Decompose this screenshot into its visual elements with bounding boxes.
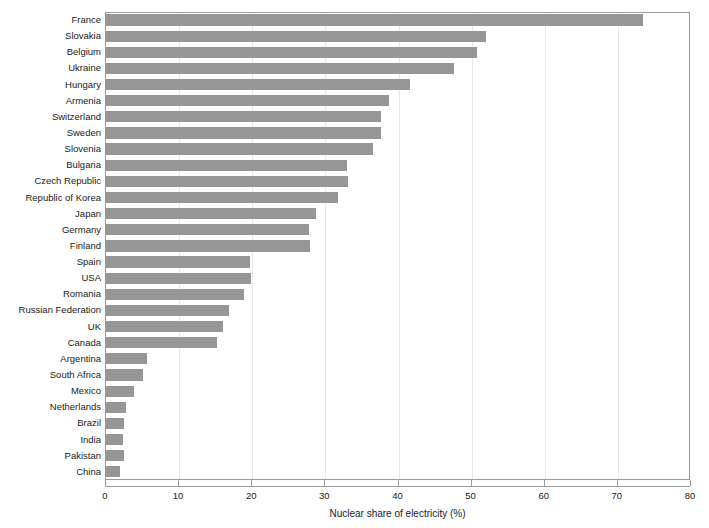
- x-tick: [324, 480, 325, 486]
- bar-row[interactable]: [105, 448, 690, 464]
- category-label: Brazil: [0, 415, 101, 431]
- category-label: Canada: [0, 335, 101, 351]
- bar-row[interactable]: [105, 157, 690, 173]
- category-label: Sweden: [0, 125, 101, 141]
- category-label: Japan: [0, 206, 101, 222]
- bar-row[interactable]: [105, 399, 690, 415]
- category-label: Spain: [0, 254, 101, 270]
- bar[interactable]: [105, 305, 229, 316]
- bar-row[interactable]: [105, 77, 690, 93]
- category-label: USA: [0, 270, 101, 286]
- bar[interactable]: [105, 14, 643, 25]
- bar[interactable]: [105, 31, 486, 42]
- category-label: Netherlands: [0, 399, 101, 415]
- category-axis-labels: FranceSlovakiaBelgiumUkraineHungaryArmen…: [0, 12, 101, 480]
- category-label: Belgium: [0, 44, 101, 60]
- bar-row[interactable]: [105, 432, 690, 448]
- bars-layer: [105, 12, 690, 480]
- bar[interactable]: [105, 208, 316, 219]
- bar-row[interactable]: [105, 415, 690, 431]
- bar-row[interactable]: [105, 93, 690, 109]
- bar[interactable]: [105, 386, 134, 397]
- bar-row[interactable]: [105, 222, 690, 238]
- category-label: Pakistan: [0, 448, 101, 464]
- bar[interactable]: [105, 289, 244, 300]
- bar-row[interactable]: [105, 238, 690, 254]
- category-label: Slovenia: [0, 141, 101, 157]
- bar-row[interactable]: [105, 190, 690, 206]
- bar[interactable]: [105, 434, 123, 445]
- bar[interactable]: [105, 369, 143, 380]
- nuclear-share-bar-chart: FranceSlovakiaBelgiumUkraineHungaryArmen…: [0, 0, 709, 528]
- x-tick-label: 80: [685, 490, 696, 501]
- x-axis: Nuclear share of electricity (%) 0102030…: [105, 480, 690, 528]
- x-tick: [178, 480, 179, 486]
- bar-row[interactable]: [105, 28, 690, 44]
- bar[interactable]: [105, 450, 124, 461]
- category-label: Switzerland: [0, 109, 101, 125]
- bar[interactable]: [105, 256, 250, 267]
- bar[interactable]: [105, 127, 381, 138]
- bar[interactable]: [105, 47, 477, 58]
- x-tick: [251, 480, 252, 486]
- bar[interactable]: [105, 143, 373, 154]
- x-tick-label: 10: [173, 490, 184, 501]
- x-tick: [471, 480, 472, 486]
- category-label: South Africa: [0, 367, 101, 383]
- category-label: Argentina: [0, 351, 101, 367]
- x-tick: [544, 480, 545, 486]
- x-tick-label: 20: [246, 490, 257, 501]
- x-tick: [690, 480, 691, 486]
- bar[interactable]: [105, 273, 251, 284]
- category-label: Bulgaria: [0, 157, 101, 173]
- bar-row[interactable]: [105, 44, 690, 60]
- bar[interactable]: [105, 402, 126, 413]
- bar[interactable]: [105, 353, 147, 364]
- category-label: Czech Republic: [0, 173, 101, 189]
- bar-row[interactable]: [105, 270, 690, 286]
- bar[interactable]: [105, 466, 120, 477]
- bar-row[interactable]: [105, 60, 690, 76]
- bar[interactable]: [105, 321, 223, 332]
- bar[interactable]: [105, 224, 309, 235]
- bar[interactable]: [105, 192, 338, 203]
- x-tick-label: 40: [392, 490, 403, 501]
- bar-row[interactable]: [105, 125, 690, 141]
- bar-row[interactable]: [105, 335, 690, 351]
- bar-row[interactable]: [105, 109, 690, 125]
- bar-row[interactable]: [105, 367, 690, 383]
- category-label: Slovakia: [0, 28, 101, 44]
- category-label: Hungary: [0, 77, 101, 93]
- bar-row[interactable]: [105, 351, 690, 367]
- x-tick: [105, 480, 106, 486]
- x-tick: [617, 480, 618, 486]
- bar-row[interactable]: [105, 173, 690, 189]
- x-tick-label: 60: [538, 490, 549, 501]
- bar-row[interactable]: [105, 464, 690, 480]
- category-label: India: [0, 432, 101, 448]
- bar-row[interactable]: [105, 141, 690, 157]
- bar[interactable]: [105, 337, 217, 348]
- x-axis-title: Nuclear share of electricity (%): [105, 508, 690, 519]
- category-label: Mexico: [0, 383, 101, 399]
- category-label: UK: [0, 319, 101, 335]
- bar[interactable]: [105, 63, 454, 74]
- category-label: Armenia: [0, 93, 101, 109]
- bar-row[interactable]: [105, 319, 690, 335]
- bar-row[interactable]: [105, 302, 690, 318]
- bar[interactable]: [105, 418, 124, 429]
- x-tick-label: 30: [319, 490, 330, 501]
- category-label: Finland: [0, 238, 101, 254]
- x-tick: [398, 480, 399, 486]
- bar[interactable]: [105, 240, 310, 251]
- bar[interactable]: [105, 95, 389, 106]
- bar-row[interactable]: [105, 254, 690, 270]
- bar-row[interactable]: [105, 12, 690, 28]
- bar[interactable]: [105, 176, 348, 187]
- bar-row[interactable]: [105, 286, 690, 302]
- bar[interactable]: [105, 79, 410, 90]
- bar[interactable]: [105, 111, 381, 122]
- bar-row[interactable]: [105, 206, 690, 222]
- bar[interactable]: [105, 160, 347, 171]
- bar-row[interactable]: [105, 383, 690, 399]
